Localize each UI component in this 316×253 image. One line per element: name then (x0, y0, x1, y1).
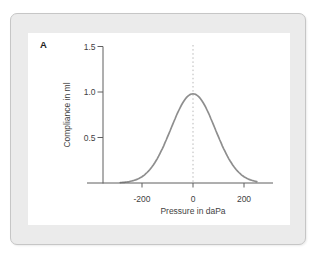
x-axis-ticks (142, 183, 244, 188)
x-tick-label: -200 (133, 194, 150, 204)
y-tick-label: 1.0 (84, 87, 96, 97)
y-axis-title: Compliance in ml (62, 82, 72, 147)
tympanogram-chart: A 0.51.01.5 -2000200 Compliance in ml Pr… (0, 0, 316, 253)
y-tick-label: 1.5 (84, 42, 96, 52)
compliance-curve (120, 94, 256, 183)
figure: A 0.51.01.5 -2000200 Compliance in ml Pr… (0, 0, 316, 253)
x-tick-label: 200 (237, 194, 251, 204)
panel-label: A (40, 39, 47, 50)
x-tick-label: 0 (191, 194, 196, 204)
y-axis-tick-labels: 0.51.01.5 (84, 42, 96, 143)
y-axis-ticks (98, 47, 104, 138)
y-tick-label: 0.5 (84, 133, 96, 143)
x-axis-title: Pressure in daPa (160, 206, 225, 216)
x-axis-tick-labels: -2000200 (133, 194, 251, 204)
